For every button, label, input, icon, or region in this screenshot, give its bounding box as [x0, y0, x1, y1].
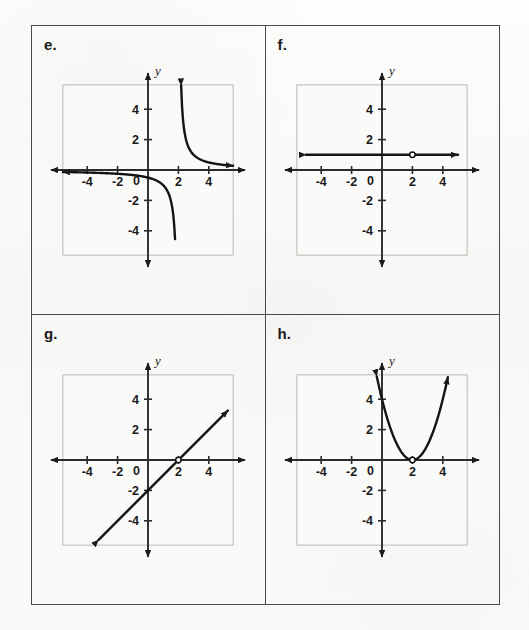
exercise-panel-grid: e. -4-22442-2-40xy f. -4-22442-2-40xy g.…	[31, 25, 500, 605]
svg-text:2: 2	[409, 175, 416, 189]
svg-text:-4: -4	[362, 514, 373, 528]
svg-text:-2: -2	[128, 194, 139, 208]
svg-text:-4: -4	[362, 224, 373, 238]
svg-text:0: 0	[367, 464, 374, 478]
svg-text:-2: -2	[112, 175, 123, 189]
svg-text:2: 2	[132, 133, 139, 147]
panel-f: f. -4-22442-2-40xy	[266, 26, 500, 315]
graph-g: -4-22442-2-40xy	[32, 315, 265, 604]
panel-g: g. -4-22442-2-40xy	[32, 315, 266, 604]
svg-text:y: y	[153, 355, 161, 368]
svg-text:-2: -2	[362, 483, 373, 497]
svg-text:-4: -4	[128, 514, 139, 528]
svg-text:-4: -4	[128, 224, 139, 238]
svg-text:-2: -2	[112, 465, 123, 479]
svg-text:4: 4	[366, 392, 373, 406]
svg-text:4: 4	[206, 465, 213, 479]
svg-text:x: x	[252, 461, 253, 476]
svg-text:4: 4	[440, 465, 447, 479]
svg-text:2: 2	[366, 133, 373, 147]
svg-text:2: 2	[175, 465, 182, 479]
svg-text:0: 0	[133, 464, 140, 478]
svg-text:2: 2	[175, 175, 182, 189]
svg-text:y: y	[387, 65, 395, 78]
graph-h: -4-22442-2-40xy	[266, 315, 500, 604]
svg-text:-4: -4	[82, 175, 93, 189]
svg-text:4: 4	[206, 175, 213, 189]
svg-text:-2: -2	[346, 465, 357, 479]
svg-text:0: 0	[367, 174, 374, 188]
svg-text:2: 2	[366, 423, 373, 437]
svg-text:-2: -2	[346, 175, 357, 189]
svg-text:-2: -2	[128, 483, 139, 497]
svg-text:4: 4	[366, 103, 373, 117]
panel-e: e. -4-22442-2-40xy	[32, 26, 266, 315]
panel-h: h. -4-22442-2-40xy	[266, 315, 500, 604]
svg-text:2: 2	[132, 423, 139, 437]
svg-text:x: x	[486, 461, 487, 476]
svg-text:4: 4	[132, 103, 139, 117]
svg-text:y: y	[387, 355, 395, 368]
svg-text:x: x	[486, 171, 487, 186]
svg-text:-4: -4	[316, 465, 327, 479]
graph-f: -4-22442-2-40xy	[266, 26, 500, 314]
graph-e: -4-22442-2-40xy	[32, 26, 265, 314]
svg-text:4: 4	[440, 175, 447, 189]
svg-text:-4: -4	[316, 175, 327, 189]
svg-text:4: 4	[132, 392, 139, 406]
svg-text:-2: -2	[362, 194, 373, 208]
svg-text:-4: -4	[82, 465, 93, 479]
svg-text:x: x	[252, 171, 253, 186]
svg-text:2: 2	[409, 465, 416, 479]
svg-text:y: y	[153, 65, 161, 78]
